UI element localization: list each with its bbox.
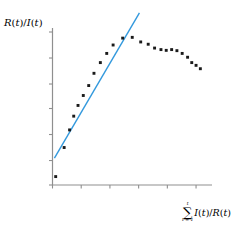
data-point-marker <box>87 84 90 87</box>
data-point-marker <box>105 52 108 55</box>
chart-plot-area <box>0 0 233 227</box>
data-point-marker <box>63 146 66 149</box>
data-point-marker <box>112 44 115 47</box>
data-point-marker <box>99 61 102 64</box>
data-point-marker <box>165 49 168 52</box>
data-point-marker <box>175 49 178 52</box>
data-point-marker <box>186 56 189 59</box>
sum-lower-limit: t = 1 <box>182 218 193 223</box>
summation-symbol: t ∑ t = 1 <box>182 202 193 223</box>
data-point-marker <box>77 104 80 107</box>
data-point-marker <box>54 175 57 178</box>
data-point-marker <box>199 67 202 70</box>
data-point-marker <box>139 40 142 43</box>
y-axis-label: R(t)/I(t) <box>4 17 43 28</box>
data-point-marker <box>72 115 75 118</box>
x-axis-label: t ∑ t = 1 I(t)/R(t) <box>182 202 231 223</box>
data-point-marker <box>131 36 134 39</box>
data-point-marker <box>181 52 184 55</box>
x-axis-expression: I(t)/R(t) <box>194 207 231 218</box>
data-point-marker <box>153 47 156 50</box>
data-point-marker <box>147 43 150 46</box>
data-point-marker <box>195 64 198 67</box>
data-point-marker <box>93 72 96 75</box>
trend-line <box>54 13 139 158</box>
data-point-marker <box>170 48 173 51</box>
data-point-marker <box>82 94 85 97</box>
data-point-marker <box>160 48 163 51</box>
data-point-marker <box>190 61 193 64</box>
chart-figure: R(t)/I(t) t ∑ t = 1 I(t)/R(t) <box>0 0 233 227</box>
data-point-marker <box>121 37 124 40</box>
data-point-marker <box>68 128 71 131</box>
